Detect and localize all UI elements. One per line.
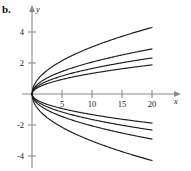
x-tick-label: 10 <box>88 99 97 109</box>
y-tick-label: 4 <box>20 27 25 37</box>
x-tick-label: 15 <box>118 99 127 109</box>
y-tick-label: -2 <box>17 120 24 130</box>
x-axis-label: x <box>173 96 178 106</box>
x-tick-label: 20 <box>148 99 157 109</box>
solution-curve <box>32 49 152 94</box>
figure-panel: b. 5 10 15 20 4 2 -2 -4 y x <box>0 0 191 171</box>
y-axis-label: y <box>35 4 40 14</box>
y-axis-arrowhead <box>29 5 35 12</box>
y-tick-label: 2 <box>20 58 24 68</box>
x-tick-label: 5 <box>60 99 64 109</box>
solution-curves-plot: 5 10 15 20 4 2 -2 -4 y x <box>0 0 191 171</box>
y-tick-label: -4 <box>17 151 25 161</box>
